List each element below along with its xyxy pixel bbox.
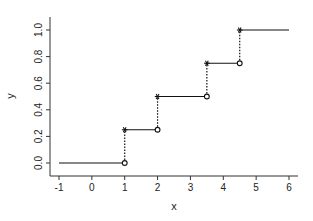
x-axis-title: x (171, 200, 177, 212)
star-marker (122, 127, 128, 132)
open-circle-marker (237, 61, 242, 66)
x-tick-label: 1 (122, 182, 128, 193)
y-tick-label: 0.6 (33, 76, 44, 90)
x-tick-label: 2 (155, 182, 161, 193)
step-function-chart: -101234560.00.20.40.60.81.0 x y (0, 0, 313, 221)
y-axis-title: y (4, 93, 16, 99)
y-tick-label: 1.0 (33, 23, 44, 37)
plot-area (59, 28, 289, 166)
y-tick-label: 0.8 (33, 49, 44, 63)
star-marker (237, 28, 243, 33)
axes: -101234560.00.20.40.60.81.0 (33, 17, 298, 193)
x-tick-label: 6 (286, 182, 292, 193)
y-tick-label: 0.0 (33, 156, 44, 170)
x-tick-label: 5 (253, 182, 259, 193)
star-marker (155, 94, 161, 99)
y-tick-label: 0.4 (33, 102, 44, 116)
x-tick-label: 3 (188, 182, 194, 193)
star-marker (204, 61, 210, 66)
open-circle-marker (155, 127, 160, 132)
x-tick-label: 4 (221, 182, 227, 193)
open-circle-marker (122, 161, 127, 166)
open-circle-marker (204, 94, 209, 99)
x-tick-label: -1 (55, 182, 64, 193)
x-tick-label: 0 (89, 182, 95, 193)
y-tick-label: 0.2 (33, 129, 44, 143)
